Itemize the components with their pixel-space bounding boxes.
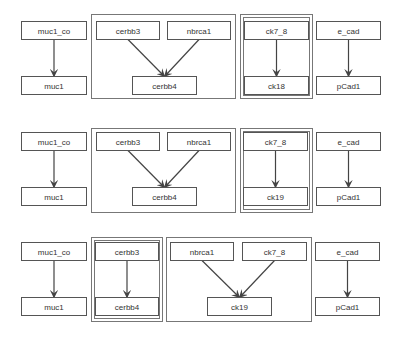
node-cerbb3[interactable]: cerbb3 xyxy=(97,22,160,40)
node-label: e_cad xyxy=(338,27,360,36)
node-label: muc1 xyxy=(44,82,64,91)
node-cerbb3[interactable]: cerbb3 xyxy=(96,243,159,261)
diagram-canvas: muc1_comuc1cerbb3nbrca1cerbb4ck7_8ck18e_… xyxy=(0,0,402,338)
node-label: ck19 xyxy=(267,193,284,202)
node-cerbb4[interactable]: cerbb4 xyxy=(133,77,197,95)
node-label: ck7_8 xyxy=(266,27,288,36)
node-label: cerbb4 xyxy=(152,82,177,91)
node-cerbb3[interactable]: cerbb3 xyxy=(97,133,160,151)
edge-cerbb3-to-cerbb4 xyxy=(128,40,165,77)
node-e_cad[interactable]: e_cad xyxy=(317,133,381,151)
node-cerbb4[interactable]: cerbb4 xyxy=(133,188,197,206)
node-muc1[interactable]: muc1 xyxy=(22,188,87,206)
node-e_cad[interactable]: e_cad xyxy=(316,243,380,261)
node-label: nbrca1 xyxy=(187,138,212,147)
node-pCad1[interactable]: pCad1 xyxy=(317,188,381,206)
edge-nbrca1-to-ck19 xyxy=(202,261,240,298)
node-label: cerbb4 xyxy=(152,193,177,202)
node-label: pCad1 xyxy=(336,303,360,312)
node-label: pCad1 xyxy=(337,193,361,202)
node-label: e_cad xyxy=(338,138,360,147)
edge-cerbb3-to-cerbb4 xyxy=(128,151,165,188)
node-label: muc1 xyxy=(44,303,64,312)
node-ck7_8[interactable]: ck7_8 xyxy=(243,243,307,261)
node-nbrca1[interactable]: nbrca1 xyxy=(168,133,231,151)
node-pCad1[interactable]: pCad1 xyxy=(317,77,381,95)
node-cerbb4[interactable]: cerbb4 xyxy=(96,298,159,316)
node-label: ck7_8 xyxy=(265,138,287,147)
node-ck7_8[interactable]: ck7_8 xyxy=(245,22,309,40)
node-muc1_co[interactable]: muc1_co xyxy=(22,243,87,261)
node-muc1[interactable]: muc1 xyxy=(22,298,87,316)
node-ck18[interactable]: ck18 xyxy=(245,77,309,95)
node-ck7_8[interactable]: ck7_8 xyxy=(244,133,308,151)
node-label: ck7_8 xyxy=(264,248,286,257)
node-e_cad[interactable]: e_cad xyxy=(317,22,381,40)
node-label: nbrca1 xyxy=(190,248,215,257)
node-label: muc1_co xyxy=(38,248,71,257)
node-label: ck18 xyxy=(268,82,285,91)
edge-nbrca1-to-cerbb4 xyxy=(165,40,200,77)
node-label: muc1_co xyxy=(38,27,71,36)
node-label: ck19 xyxy=(231,303,248,312)
edge-ck7_8-to-ck19 xyxy=(240,261,275,298)
node-label: muc1 xyxy=(44,193,64,202)
node-muc1_co[interactable]: muc1_co xyxy=(22,22,87,40)
node-layer: muc1_comuc1cerbb3nbrca1cerbb4ck7_8ck18e_… xyxy=(22,22,381,316)
node-label: cerbb3 xyxy=(115,248,140,257)
node-label: pCad1 xyxy=(337,82,361,91)
node-nbrca1[interactable]: nbrca1 xyxy=(171,243,234,261)
node-muc1[interactable]: muc1 xyxy=(22,77,87,95)
node-ck19[interactable]: ck19 xyxy=(244,188,308,206)
node-label: muc1_co xyxy=(38,138,71,147)
node-label: cerbb3 xyxy=(116,27,141,36)
group-layer xyxy=(92,15,313,322)
node-label: e_cad xyxy=(337,248,359,257)
edge-nbrca1-to-cerbb4 xyxy=(165,151,200,188)
node-label: cerbb3 xyxy=(116,138,141,147)
node-muc1_co[interactable]: muc1_co xyxy=(22,133,87,151)
node-label: cerbb4 xyxy=(115,303,140,312)
node-pCad1[interactable]: pCad1 xyxy=(316,298,380,316)
node-label: nbrca1 xyxy=(187,27,212,36)
node-ck19[interactable]: ck19 xyxy=(208,298,272,316)
node-nbrca1[interactable]: nbrca1 xyxy=(168,22,231,40)
